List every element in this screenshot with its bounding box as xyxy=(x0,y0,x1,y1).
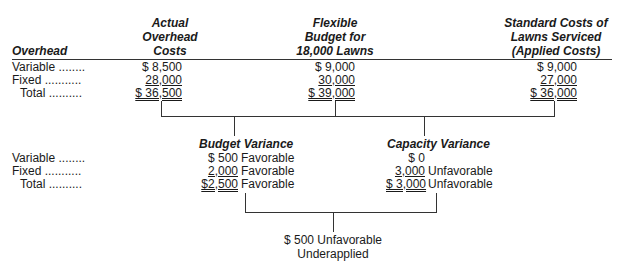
flexible-header-line3: 18,000 Lawns xyxy=(285,44,385,58)
capacity-variance-title: Capacity Variance xyxy=(387,137,490,151)
actual-variable: $ 8,500 xyxy=(132,60,182,74)
bracket-actual-drop xyxy=(161,101,162,117)
budget-total-amount: $2,500 xyxy=(199,177,238,191)
budget-total-note: Favorable xyxy=(241,177,294,191)
standard-fixed: 27,000 xyxy=(527,73,577,87)
standard-header-line3: (Applied Costs) xyxy=(496,44,616,58)
actual-total: $ 36,500 xyxy=(132,86,182,100)
result-amount: $ 500 Unfavorable xyxy=(268,233,398,247)
budget-variance-title: Budget Variance xyxy=(199,137,293,151)
bracket-standard-drop xyxy=(554,101,555,117)
row-label-variable: Variable ........ xyxy=(12,60,85,74)
lower-bracket-left-drop xyxy=(245,193,246,213)
bracket-budget-stem xyxy=(234,116,235,136)
flexible-total: $ 39,000 xyxy=(305,86,355,100)
budget-fixed-note: Favorable xyxy=(241,164,294,178)
bracket-flexible-drop xyxy=(335,101,336,117)
flexible-header-line1: Flexible xyxy=(285,16,385,30)
actual-header-line3: Costs xyxy=(130,44,210,58)
standard-header-line1: Standard Costs of xyxy=(496,16,616,30)
overhead-header: Overhead xyxy=(12,44,67,58)
variance-label-variable: Variable ........ xyxy=(12,151,85,165)
flexible-fixed: 30,000 xyxy=(305,73,355,87)
actual-fixed: 28,000 xyxy=(132,73,182,87)
bracket-capacity-stem xyxy=(424,116,425,136)
capacity-fixed-amount: 3,000 xyxy=(386,164,425,178)
actual-header: Actual Overhead Costs xyxy=(130,16,210,58)
standard-variable: $ 9,000 xyxy=(527,60,577,74)
actual-header-line2: Overhead xyxy=(130,30,210,44)
budget-variable-note: Favorable xyxy=(241,151,294,165)
standard-header-line2: Lawns Serviced xyxy=(496,30,616,44)
flexible-header-line2: Budget for xyxy=(285,30,385,44)
variance-label-total: Total .......... xyxy=(20,177,82,191)
overhead-variance-diagram: Actual Overhead Costs Flexible Budget fo… xyxy=(0,0,617,265)
lower-bracket-right-drop xyxy=(436,193,437,213)
budget-fixed-amount: 2,000 xyxy=(199,164,238,178)
row-label-fixed: Fixed ........... xyxy=(12,73,81,87)
capacity-total-amount: $ 3,000 xyxy=(386,177,425,191)
variance-label-fixed: Fixed ........... xyxy=(12,164,81,178)
capacity-fixed-note: Unfavorable xyxy=(428,164,493,178)
bracket-horizontal xyxy=(161,116,555,117)
capacity-variable-amount: $ 0 xyxy=(386,151,425,165)
standard-total: $ 36,000 xyxy=(527,86,577,100)
flexible-variable: $ 9,000 xyxy=(305,60,355,74)
lower-bracket-horizontal xyxy=(245,212,437,213)
actual-header-line1: Actual xyxy=(130,16,210,30)
standard-header: Standard Costs of Lawns Serviced (Applie… xyxy=(496,16,616,58)
flexible-header: Flexible Budget for 18,000 Lawns xyxy=(285,16,385,58)
row-label-total: Total .......... xyxy=(20,86,82,100)
capacity-total-note: Unfavorable xyxy=(428,177,493,191)
lower-bracket-stem xyxy=(333,212,334,232)
budget-variable-amount: $ 500 xyxy=(199,151,238,165)
result-box: $ 500 Unfavorable Underapplied xyxy=(268,233,398,261)
result-status: Underapplied xyxy=(268,247,398,261)
